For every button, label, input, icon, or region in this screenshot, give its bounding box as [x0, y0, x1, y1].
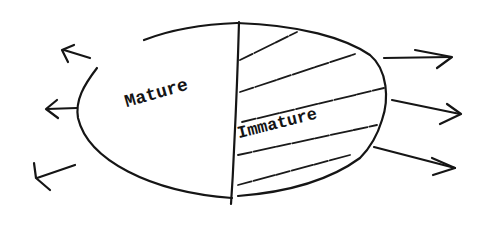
hatch-line — [240, 54, 355, 92]
split-ellipse-diagram — [0, 0, 489, 226]
divider-line — [231, 22, 239, 204]
arrow-left-middle — [46, 100, 77, 118]
arrow-right-bottom — [374, 147, 455, 175]
arrow-left-top — [62, 45, 90, 62]
hatch-line — [238, 155, 350, 185]
arrow-right-top — [384, 50, 452, 68]
arrow-left-bottom — [34, 163, 75, 190]
ellipse-left-outline — [144, 23, 237, 40]
arrow-right-middle — [392, 100, 461, 124]
hatch-line — [240, 32, 297, 60]
